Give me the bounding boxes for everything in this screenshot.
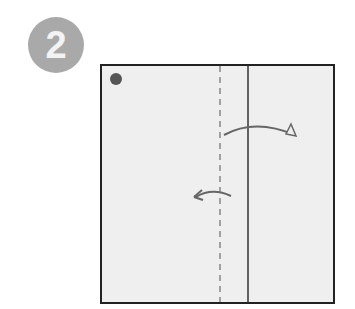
corner-dot-icon	[110, 73, 122, 85]
origami-diagram	[0, 0, 355, 309]
paper-square	[101, 65, 334, 303]
